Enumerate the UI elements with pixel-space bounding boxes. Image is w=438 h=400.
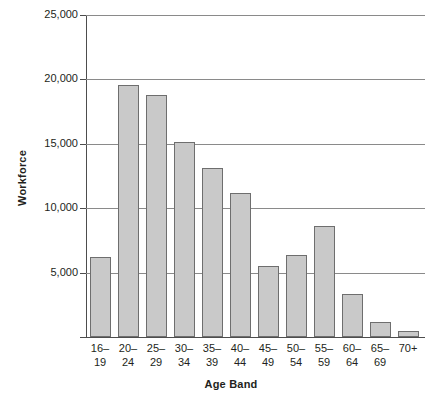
x-axis-tick-label-line1: 25–	[147, 342, 165, 354]
x-axis-tick-label-line1: 50–	[287, 342, 305, 354]
bar	[342, 294, 363, 337]
y-axis-tick-label: 25,000	[8, 9, 78, 20]
x-axis-tick-label-line1: 20–	[119, 342, 137, 354]
x-axis-tick-label-line1: 65–	[371, 342, 389, 354]
y-axis-tick-label: 20,000	[8, 73, 78, 84]
bar	[230, 193, 251, 337]
bar-chart: Workforce 25,00020,00015,00010,0005,000 …	[0, 0, 438, 400]
bar	[118, 85, 139, 337]
y-axis-tick-label: 15,000	[8, 138, 78, 149]
bar	[90, 257, 111, 337]
x-axis-tick-label-line2: 69	[360, 355, 400, 369]
x-axis-title: Age Band	[0, 378, 438, 390]
x-axis-tick-label: 70+	[388, 341, 428, 355]
x-axis-tick-label-line1: 55–	[315, 342, 333, 354]
x-axis-tick-label-line1: 60–	[343, 342, 361, 354]
plot-area	[86, 15, 425, 337]
bar	[146, 95, 167, 337]
x-axis-title-text: Age Band	[205, 378, 258, 390]
bar	[398, 331, 419, 337]
x-axis-tick-label-line1: 40–	[231, 342, 249, 354]
y-axis-tick-mark	[80, 337, 86, 338]
y-axis-tick-label: 5,000	[8, 267, 78, 278]
x-axis-baseline	[86, 337, 425, 338]
bar	[258, 266, 279, 337]
bar	[286, 255, 307, 337]
x-axis-tick-label-line1: 35–	[203, 342, 221, 354]
x-axis-tick-label-line1: 30–	[175, 342, 193, 354]
x-axis-tick-labels: 16–1920–2425–2930–3435–3940–4445–4950–54…	[86, 341, 425, 377]
bar	[202, 168, 223, 337]
bar	[370, 322, 391, 337]
x-axis-tick-label-line1: 16–	[91, 342, 109, 354]
bar	[314, 226, 335, 337]
y-axis-tick-label: 10,000	[8, 202, 78, 213]
bars-group	[86, 15, 425, 337]
bar	[174, 142, 195, 337]
x-axis-tick-label-line1: 70+	[399, 342, 418, 354]
x-axis-tick-label-line1: 45–	[259, 342, 277, 354]
